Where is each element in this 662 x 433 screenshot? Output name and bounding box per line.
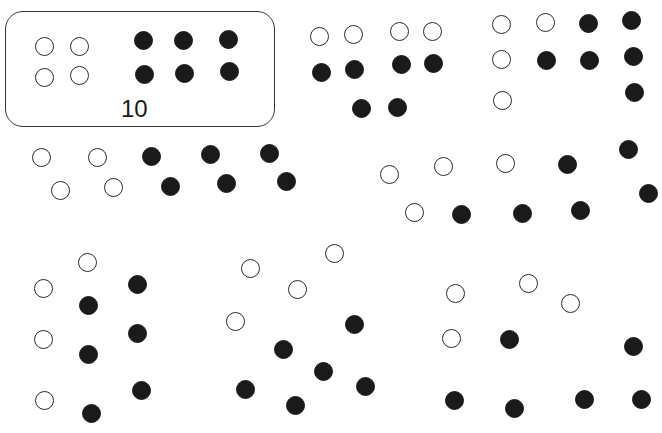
black-circle [632,390,651,409]
circles-layer [0,0,662,433]
white-circle [442,329,461,348]
white-circle [446,284,465,303]
white-circle [519,274,538,293]
black-circle [445,391,464,410]
group-8 [0,0,662,433]
black-circle [575,390,594,409]
white-circle [561,294,580,313]
black-circle [500,330,519,349]
black-circle [624,337,643,356]
black-circle [505,399,524,418]
